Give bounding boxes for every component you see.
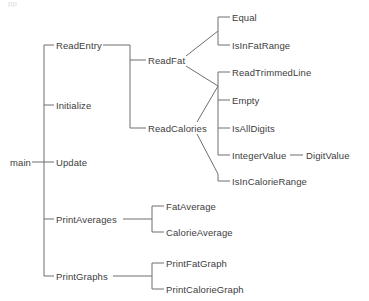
node-update[interactable]: Update [56, 157, 87, 168]
node-isincalorierange[interactable]: IsInCalorieRange [232, 176, 307, 187]
node-printgraphs[interactable]: PrintGraphs [56, 271, 108, 282]
node-isinfatrange[interactable]: IsInFatRange [232, 40, 290, 51]
node-fataverage[interactable]: FatAverage [166, 201, 216, 212]
edge-readfat-diagonal-up [186, 31, 218, 56]
edge-readcalories-diagonal-up [197, 86, 218, 122]
node-readentry[interactable]: ReadEntry [56, 40, 102, 51]
node-integervalue[interactable]: IntegerValue [232, 150, 286, 161]
node-equal[interactable]: Equal [232, 12, 257, 23]
node-digitvalue[interactable]: DigitValue [306, 150, 350, 161]
node-calorieaverage[interactable]: CalorieAverage [166, 227, 233, 238]
node-initialize[interactable]: Initialize [56, 100, 91, 111]
node-empty[interactable]: Empty [232, 95, 259, 106]
node-readcalories[interactable]: ReadCalories [148, 123, 207, 134]
node-printfatgraph[interactable]: PrintFatGraph [166, 258, 227, 269]
node-readfat[interactable]: ReadFat [148, 55, 185, 66]
node-printaverages[interactable]: PrintAverages [56, 214, 117, 225]
edge-readfat-readtrimmedline [186, 66, 218, 86]
node-main[interactable]: main [10, 157, 31, 168]
edge-readcalories-diagonal-down [197, 134, 218, 174]
node-isalldigits[interactable]: IsAllDigits [232, 123, 275, 134]
node-readtrimmedline[interactable]: ReadTrimmedLine [232, 67, 311, 78]
call-tree-diagram: pp [0, 0, 369, 301]
node-printcaloriegraph[interactable]: PrintCalorieGraph [166, 284, 244, 295]
